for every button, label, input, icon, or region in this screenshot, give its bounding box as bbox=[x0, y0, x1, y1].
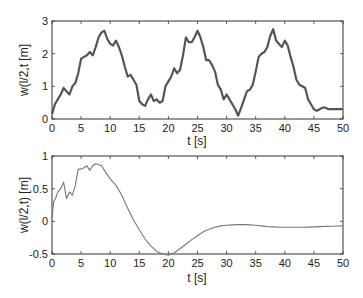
x-tick-label: 45 bbox=[308, 257, 320, 269]
x-tick-label: 30 bbox=[220, 122, 232, 134]
x-tick-label: 15 bbox=[133, 122, 145, 134]
x-tick-label: 20 bbox=[162, 257, 174, 269]
top-y-axis-label: w(l/2,t [m] bbox=[17, 44, 31, 97]
bottom-series-line bbox=[52, 164, 343, 256]
x-tick-label: 35 bbox=[250, 122, 262, 134]
x-tick-label: 40 bbox=[279, 122, 291, 134]
bottom-x-ticks: 05101520253035404550 bbox=[49, 156, 349, 269]
x-tick-label: 15 bbox=[133, 257, 145, 269]
x-tick-label: 30 bbox=[220, 257, 232, 269]
y-tick-label: 2 bbox=[42, 48, 48, 60]
x-tick-label: 20 bbox=[162, 122, 174, 134]
figure: 05101520253035404550 0123 t [s] w(l/2,t … bbox=[0, 0, 363, 298]
y-tick-label: 0 bbox=[42, 215, 48, 227]
x-tick-label: 35 bbox=[250, 257, 262, 269]
y-tick-label: 1 bbox=[42, 150, 48, 162]
x-tick-label: 45 bbox=[308, 122, 320, 134]
x-tick-label: 0 bbox=[49, 257, 55, 269]
top-x-axis-label: t [s] bbox=[187, 134, 206, 148]
x-tick-label: 10 bbox=[104, 122, 116, 134]
x-tick-label: 40 bbox=[279, 257, 291, 269]
x-tick-label: 5 bbox=[78, 122, 84, 134]
bottom-x-axis-label: t [s] bbox=[187, 271, 206, 285]
top-plot-frame bbox=[52, 21, 343, 119]
top-y-ticks: 0123 bbox=[42, 15, 343, 125]
bottom-plot: 05101520253035404550 -0.500.51 t [s] w(l… bbox=[17, 150, 349, 285]
x-tick-label: 0 bbox=[49, 122, 55, 134]
bottom-y-axis-label: w(l/2,t) [m] bbox=[17, 177, 31, 234]
y-tick-label: 0.5 bbox=[33, 183, 48, 195]
top-x-ticks: 05101520253035404550 bbox=[49, 21, 349, 134]
y-tick-label: 3 bbox=[42, 15, 48, 27]
x-tick-label: 25 bbox=[191, 257, 203, 269]
y-tick-label: 0 bbox=[42, 113, 48, 125]
x-tick-label: 25 bbox=[191, 122, 203, 134]
y-tick-label: 1 bbox=[42, 80, 48, 92]
top-plot: 05101520253035404550 0123 t [s] w(l/2,t … bbox=[17, 15, 349, 148]
x-tick-label: 50 bbox=[337, 122, 349, 134]
x-tick-label: 50 bbox=[337, 257, 349, 269]
x-tick-label: 5 bbox=[78, 257, 84, 269]
y-tick-label: -0.5 bbox=[29, 248, 48, 260]
bottom-plot-frame bbox=[52, 156, 343, 254]
top-series-line bbox=[52, 29, 343, 116]
x-tick-label: 10 bbox=[104, 257, 116, 269]
